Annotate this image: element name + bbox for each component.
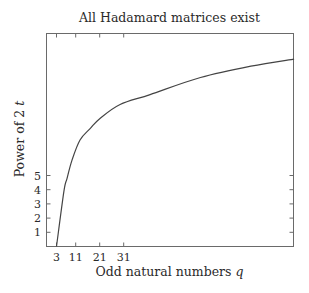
x-ticks: 3112131 [53,34,131,265]
x-tick-label: 3 [53,251,60,264]
x-tick-label: 11 [69,251,83,264]
y-tick-label: 1 [34,226,41,239]
x-tick-label: 21 [93,251,107,264]
plot-area: 3112131 12345 [0,0,309,293]
x-tick-label: 31 [117,251,131,264]
data-curve [57,59,295,246]
y-tick-label: 2 [34,212,41,225]
y-tick-label: 4 [34,184,41,197]
y-tick-label: 3 [34,198,41,211]
y-tick-label: 5 [34,170,41,183]
y-ticks: 12345 [34,170,294,240]
